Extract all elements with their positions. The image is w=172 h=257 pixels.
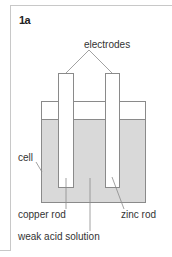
zinc-rod [106, 74, 120, 188]
cell-label: cell [18, 153, 33, 163]
zinc-rod-label: zinc rod [121, 210, 156, 220]
electrodes-label: electrodes [84, 40, 130, 50]
weak-acid-solution-fill [42, 119, 145, 202]
weak-acid-solution-label: weak acid solution [18, 232, 100, 242]
electrodes-leader-right [89, 50, 112, 73]
copper-rod-label: copper rod [18, 210, 66, 220]
copper-rod [59, 74, 74, 188]
electrodes-leader-left [66, 50, 89, 73]
